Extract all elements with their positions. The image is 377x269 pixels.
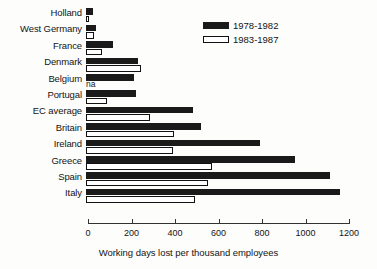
chart-row: Greece [0,156,377,172]
chart-row: Italy [0,188,377,204]
chart-row: West Germany [0,24,377,40]
chart-row: EC average [0,106,377,122]
bar-group [86,139,377,155]
chart-row: France [0,41,377,57]
bar-group: na [86,74,377,90]
category-label: Belgium [0,74,86,84]
bar-1978-1982 [86,156,295,163]
bar-1983-1987 [86,98,107,105]
axis-tick-label: 800 [254,228,269,238]
legend-item-1983-1987: 1983-1987 [203,34,278,45]
bar-1983-1987 [86,114,150,121]
bar-group [86,172,377,188]
legend-item-1978-1982: 1978-1982 [203,20,278,31]
category-label: West Germany [0,24,86,34]
axis-tick [175,219,176,224]
axis-tick [349,219,350,224]
chart-row: Spain [0,172,377,188]
axis-tick [262,219,263,224]
bar-1983-1987 [86,49,102,56]
axis-tick [88,219,89,224]
chart-row: Ireland [0,139,377,155]
x-axis: 020040060080010001200 [88,223,349,224]
bar-1978-1982 [86,58,138,65]
category-label: Italy [0,188,86,198]
bar-1978-1982 [86,123,201,130]
axis-tick-label: 1200 [339,228,359,238]
bar-1978-1982 [86,8,93,15]
chart-legend: 1978-1982 1983-1987 [203,20,278,48]
bar-1983-1987 [86,65,141,72]
bar-1983-1987 [86,180,208,187]
category-label: France [0,41,86,51]
bar-1978-1982 [86,189,340,196]
legend-label-1983-1987: 1983-1987 [233,34,278,45]
bar-1978-1982 [86,25,96,32]
bar-group [86,90,377,106]
chart-rows: HollandWest GermanyFranceDenmarkBelgiumn… [0,8,377,205]
category-label: Ireland [0,139,86,149]
axis-tick [219,219,220,224]
bar-group [86,156,377,172]
bar-1978-1982 [86,172,330,179]
no-data-label: na [86,80,95,89]
category-label: Britain [0,123,86,133]
bar-1983-1987 [86,32,94,39]
category-label: Portugal [0,90,86,100]
x-axis-title: Working days lost per thousand employees [0,247,377,258]
bar-1983-1987 [86,196,195,203]
axis-tick-label: 600 [211,228,226,238]
axis-tick [306,219,307,224]
bar-group [86,123,377,139]
bar-1978-1982 [86,41,113,48]
legend-swatch-light [203,36,229,43]
bar-group [86,188,377,204]
bar-1978-1982 [86,107,193,114]
legend-label-1978-1982: 1978-1982 [233,20,278,31]
axis-tick-label: 0 [85,228,90,238]
bar-1978-1982 [86,90,136,97]
axis-tick-label: 400 [167,228,182,238]
bar-group [86,57,377,73]
chart-row: Belgiumna [0,74,377,90]
chart-row: Denmark [0,57,377,73]
bar-1983-1987 [86,147,173,154]
bar-1983-1987 [86,163,212,170]
axis-tick [132,219,133,224]
category-label: EC average [0,106,86,116]
axis-tick-label: 200 [124,228,139,238]
category-label: Greece [0,156,86,166]
chart-row: Portugal [0,90,377,106]
chart-row: Britain [0,123,377,139]
category-label: Denmark [0,57,86,67]
bar-1983-1987 [86,16,89,23]
bar-group [86,106,377,122]
chart-row: Holland [0,8,377,24]
category-label: Holland [0,8,86,18]
bar-1978-1982 [86,140,260,147]
axis-tick-label: 1000 [295,228,315,238]
legend-swatch-dark [203,22,229,29]
bar-chart: HollandWest GermanyFranceDenmarkBelgiumn… [0,0,377,269]
bar-1983-1987 [86,131,174,138]
category-label: Spain [0,172,86,182]
